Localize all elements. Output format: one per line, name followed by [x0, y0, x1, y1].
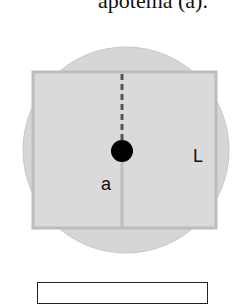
side-label: L [193, 146, 203, 167]
center-dot [111, 140, 133, 162]
answer-box[interactable] [37, 282, 208, 304]
apothem-label: a [101, 174, 111, 195]
